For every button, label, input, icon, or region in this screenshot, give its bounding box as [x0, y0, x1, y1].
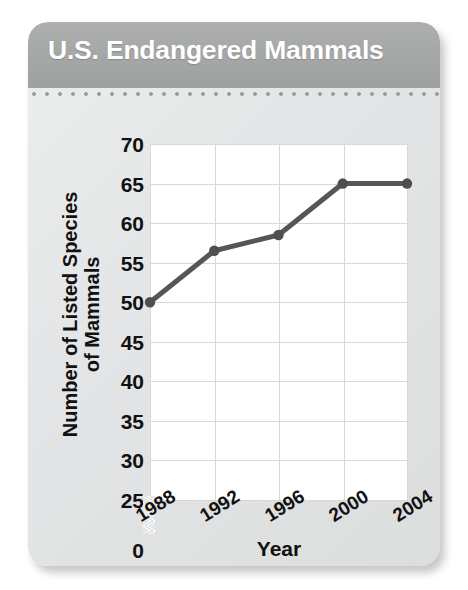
screenshot-root: U.S. Endangered Mammals Number of Listed…: [0, 0, 468, 590]
page-title: U.S. Endangered Mammals: [48, 35, 428, 66]
data-point-2004: [402, 178, 412, 188]
x-axis-title: Year: [150, 537, 408, 561]
data-point-1988: [145, 297, 155, 307]
chart-figure: Number of Listed Species of Mammals 70 6…: [28, 100, 440, 566]
y-axis-title-line-1: Number of Listed Species: [59, 154, 81, 474]
y-tick-45: 45: [90, 332, 144, 353]
y-tick-65: 65: [90, 174, 144, 195]
y-axis-ticks: 70 65 60 55 50 45 40 35 30 25 0: [80, 144, 144, 500]
chart-card: U.S. Endangered Mammals Number of Listed…: [28, 22, 440, 566]
y-tick-35: 35: [90, 411, 144, 432]
data-point-1996: [273, 230, 283, 240]
data-point-1992: [209, 246, 219, 256]
data-series-line: [150, 144, 408, 500]
y-tick-0: 0: [90, 540, 144, 561]
y-tick-60: 60: [90, 213, 144, 234]
y-tick-55: 55: [90, 253, 144, 274]
series-markers: [145, 178, 412, 307]
card-header: U.S. Endangered Mammals: [28, 22, 440, 88]
data-point-2000: [338, 178, 348, 188]
y-tick-70: 70: [90, 134, 144, 155]
y-tick-30: 30: [90, 450, 144, 471]
y-tick-40: 40: [90, 371, 144, 392]
dotted-divider: [28, 88, 440, 100]
series-polyline: [150, 184, 407, 303]
y-tick-50: 50: [90, 292, 144, 313]
